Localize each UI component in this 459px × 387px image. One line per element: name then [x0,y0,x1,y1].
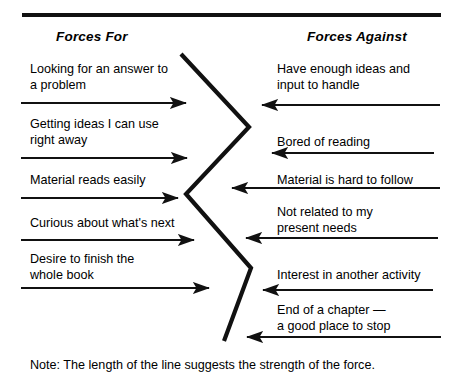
zigzag-divider [181,54,251,341]
force-field-diagram: Forces For Forces Against Looking for an… [0,0,459,387]
footnote: Note: The length of the line suggests th… [30,358,375,372]
arrows-and-divider-layer [0,0,459,387]
